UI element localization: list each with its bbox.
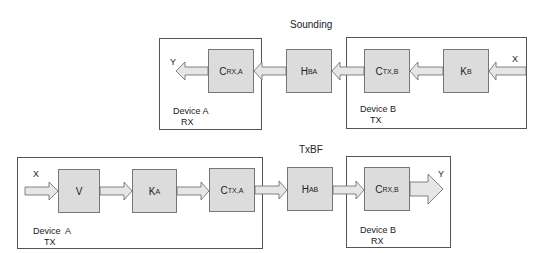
arrow-left-icon	[176, 62, 208, 80]
arrow-left-icon	[489, 62, 526, 80]
arrow-left-icon	[254, 62, 286, 80]
arrow-left-icon	[332, 62, 364, 80]
arrow-left-icon	[410, 62, 443, 80]
signal-arrows	[0, 0, 542, 253]
arrow-right-icon	[25, 182, 58, 200]
arrow-right-icon	[410, 174, 443, 204]
arrow-right-icon	[177, 182, 209, 200]
arrow-right-icon	[333, 181, 364, 199]
arrow-right-icon	[255, 181, 287, 199]
arrow-right-icon	[100, 182, 132, 200]
